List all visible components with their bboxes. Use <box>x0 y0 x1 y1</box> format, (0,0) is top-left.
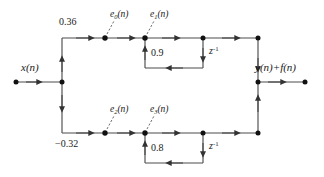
gain-label-upper-text: 0.36 <box>59 16 77 27</box>
leader-e0 <box>107 21 114 34</box>
gain-label-lower-text: −0.32 <box>55 138 78 149</box>
node-label-e2: e2(n) <box>110 105 129 115</box>
node-lower-merge <box>256 131 261 136</box>
output-label: y(n)+f(n) <box>255 62 296 73</box>
leader-e3 <box>147 116 154 129</box>
input-label-text: x(n) <box>21 61 39 73</box>
delay-label-lower: z-1 <box>209 141 219 151</box>
node-output-sum <box>256 80 261 85</box>
node-label-e3: e3(n) <box>150 105 169 115</box>
node-e0 <box>102 35 107 40</box>
node-upper-delay-tap <box>201 36 206 41</box>
delay-label-lower-exp: -1 <box>213 140 219 147</box>
leader-e1 <box>147 21 154 34</box>
feedback-gain-label-upper-text: 0.9 <box>151 47 164 58</box>
node-lower-delay-tap <box>201 131 206 136</box>
node-label-e0-arg: (n) <box>117 9 128 19</box>
feedback-gain-label-lower: 0.8 <box>151 143 164 153</box>
signal-flow-graph-figure: x(n) y(n)+f(n) 0.36 −0.32 0.9 0.8 z-1 z-… <box>0 0 324 177</box>
node-input-split <box>60 80 65 85</box>
feedback-gain-label-lower-text: 0.8 <box>151 142 164 153</box>
node-label-e3-arg: (n) <box>157 104 168 114</box>
output-label-text: y(n)+f(n) <box>255 61 296 73</box>
input-label: x(n) <box>21 62 39 73</box>
gain-label-lower: −0.32 <box>55 139 78 149</box>
node-output-terminal <box>303 80 308 85</box>
node-upper-merge <box>256 36 261 41</box>
delay-label-upper-exp: -1 <box>213 45 219 52</box>
node-label-e1-arg: (n) <box>157 9 168 19</box>
node-e2 <box>102 130 107 135</box>
gain-label-upper: 0.36 <box>59 17 77 27</box>
delay-label-upper: z-1 <box>209 46 219 56</box>
node-e3 <box>142 130 147 135</box>
node-e1 <box>142 35 147 40</box>
node-label-e0: e0(n) <box>110 10 129 20</box>
node-input-terminal <box>14 80 19 85</box>
feedback-gain-label-upper: 0.9 <box>151 48 164 58</box>
node-label-e2-arg: (n) <box>117 104 128 114</box>
leader-e2 <box>107 116 114 129</box>
node-label-e1: e1(n) <box>150 10 169 20</box>
